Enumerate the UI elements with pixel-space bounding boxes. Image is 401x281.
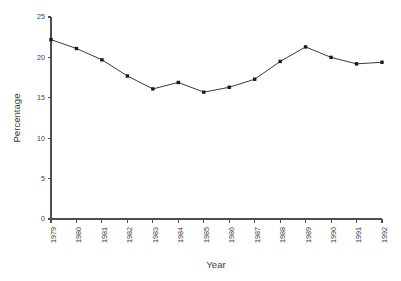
- data-point-marker: [151, 87, 154, 90]
- data-point-marker: [100, 58, 103, 61]
- y-axis-tick-labels: 0510152025: [37, 12, 45, 223]
- x-tick-label: 1982: [125, 227, 134, 243]
- x-tick-label: 1991: [354, 227, 363, 243]
- data-point-marker: [380, 61, 383, 64]
- x-tick-label: 1979: [49, 227, 58, 243]
- y-tick-label: 20: [37, 53, 45, 62]
- data-point-marker: [228, 86, 231, 89]
- data-point-marker: [278, 60, 281, 63]
- y-tick-label: 15: [37, 93, 45, 102]
- x-tick-label: 1987: [253, 227, 262, 243]
- data-point-marker: [202, 90, 205, 93]
- data-series-line: [51, 40, 382, 93]
- x-axis-title: Year: [206, 259, 226, 270]
- y-axis-title: Percentage: [11, 93, 22, 142]
- y-tick-label: 5: [41, 174, 45, 183]
- x-tick-label: 1990: [329, 227, 338, 243]
- data-point-marker: [177, 81, 180, 84]
- x-tick-label: 1983: [151, 227, 160, 243]
- data-point-marker: [126, 74, 129, 77]
- y-tick-label: 10: [37, 134, 45, 143]
- x-tick-label: 1992: [380, 227, 389, 243]
- data-point-marker: [49, 38, 52, 41]
- x-tick-label: 1988: [278, 227, 287, 243]
- data-point-marker: [253, 78, 256, 81]
- x-tick-label: 1986: [227, 227, 236, 243]
- data-point-marker: [75, 47, 78, 50]
- x-tick-label: 1989: [304, 227, 313, 243]
- data-point-marker: [355, 62, 358, 65]
- x-tick-label: 1984: [176, 227, 185, 243]
- y-tick-label: 25: [37, 12, 45, 21]
- x-tick-label: 1980: [74, 227, 83, 243]
- line-chart-plot: 0510152025 19791980198119821983198419851…: [0, 0, 401, 281]
- y-tick-label: 0: [41, 214, 45, 223]
- data-point-marker: [304, 45, 307, 48]
- x-tick-label: 1985: [202, 227, 211, 243]
- data-point-marker: [329, 56, 332, 59]
- chart-figure: 0510152025 19791980198119821983198419851…: [0, 0, 401, 281]
- x-axis-tick-labels: 1979198019811982198319841985198619871988…: [49, 227, 389, 243]
- x-tick-label: 1981: [100, 227, 109, 243]
- data-point-markers: [49, 38, 383, 94]
